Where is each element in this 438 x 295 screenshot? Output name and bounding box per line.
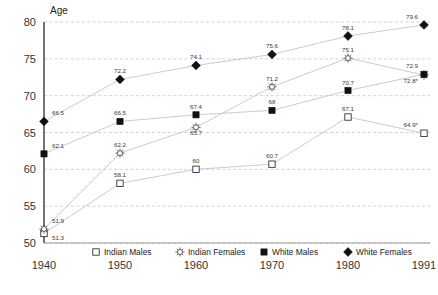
data-point-label: 65.7 <box>190 129 203 136</box>
marker-filled-square <box>261 249 267 255</box>
sunburst-ray <box>274 84 275 85</box>
x-tick-label: 1980 <box>336 259 360 271</box>
marker-open-sunburst <box>39 224 48 233</box>
legend-item-label: Indian Females <box>188 247 245 257</box>
sunburst-ray <box>122 150 123 151</box>
series-line <box>44 58 424 229</box>
data-point: 64.9* <box>404 121 428 136</box>
data-point: 66.5 <box>114 109 127 124</box>
marker-filled-square <box>421 71 427 77</box>
data-point-label: 70.7 <box>342 79 355 86</box>
chart-canvas: 50556065707580Age19401950196019701980199… <box>0 0 438 295</box>
series-white-males: 62.166.567.46870.772.9 <box>41 62 427 157</box>
x-tick-label: 1950 <box>108 259 132 271</box>
marker-open-square <box>421 130 427 136</box>
sunburst-core <box>178 250 183 255</box>
legend: Indian MalesIndian FemalesWhite MalesWhi… <box>93 247 412 257</box>
sunburst-ray <box>122 155 123 156</box>
sunburst-core <box>270 84 275 89</box>
data-point: 60.7 <box>266 152 279 167</box>
marker-open-sunburst <box>175 247 184 256</box>
sunburst-core <box>118 151 123 156</box>
data-point-label: 66.5 <box>52 109 65 116</box>
series-indian-females: 51.962.265.771.275.172.8* <box>39 46 428 234</box>
data-point: 68 <box>269 98 276 113</box>
series-line <box>44 74 424 154</box>
legend-item-indian-males[interactable]: Indian Males <box>93 247 152 257</box>
series-white-females: 66.572.274.175.678.179.6 <box>40 13 429 126</box>
data-point-label: 72.9 <box>406 62 419 69</box>
series-line <box>44 117 424 233</box>
marker-filled-diamond <box>40 117 49 126</box>
marker-open-square <box>193 166 199 172</box>
data-point-label: 72.2 <box>114 67 127 74</box>
y-axis-title: Age <box>50 5 68 16</box>
life-expectancy-line-chart: 50556065707580Age19401950196019701980199… <box>0 0 438 295</box>
sunburst-core <box>346 56 351 61</box>
data-point: 67.4 <box>190 103 203 118</box>
data-point-label: 75.6 <box>266 42 279 49</box>
data-point-label: 67.1 <box>342 105 355 112</box>
marker-open-square <box>345 114 351 120</box>
marker-filled-square <box>193 112 199 118</box>
x-tick-label: 1970 <box>260 259 284 271</box>
sunburst-ray <box>350 55 351 56</box>
sunburst-ray <box>182 254 183 255</box>
legend-item-white-females[interactable]: White Females <box>344 247 412 257</box>
sunburst-ray <box>269 89 270 90</box>
sunburst-ray <box>41 226 42 227</box>
y-tick-label: 75 <box>24 53 36 65</box>
data-point-label: 79.6 <box>406 13 419 20</box>
data-point-label: 78.1 <box>342 24 355 31</box>
marker-open-sunburst <box>343 53 352 62</box>
sunburst-ray <box>117 150 118 151</box>
sunburst-ray <box>182 249 183 250</box>
marker-filled-square <box>41 151 47 157</box>
data-point-label: 75.1 <box>342 46 355 53</box>
axes-group <box>44 22 430 243</box>
x-tick-label: 1940 <box>32 259 56 271</box>
data-point: 58.1 <box>114 171 127 186</box>
y-tick-label: 55 <box>24 200 36 212</box>
data-point: 78.1 <box>342 24 355 40</box>
data-point: 75.1 <box>342 46 355 63</box>
data-point: 72.9 <box>406 62 427 77</box>
marker-filled-diamond <box>344 32 353 41</box>
y-tick-label: 50 <box>24 237 36 249</box>
sunburst-ray <box>117 155 118 156</box>
sunburst-ray <box>269 84 270 85</box>
data-point-label: 58.1 <box>114 171 127 178</box>
sunburst-ray <box>350 60 351 61</box>
marker-filled-square <box>117 118 123 124</box>
gridlines-group <box>44 22 430 243</box>
data-point-label: 51.3 <box>52 234 65 241</box>
y-tick-label: 80 <box>24 16 36 28</box>
marker-filled-diamond <box>344 248 353 257</box>
data-point-label: 74.1 <box>190 53 203 60</box>
sunburst-ray <box>193 124 194 125</box>
x-tick-labels: 194019501960197019801991 <box>32 259 436 271</box>
legend-item-white-males[interactable]: White Males <box>261 247 318 257</box>
sunburst-ray <box>345 60 346 61</box>
data-point-label: 60 <box>193 157 200 164</box>
data-point-label: 64.9* <box>404 121 419 128</box>
series-indian-males: 51.358.16060.767.164.9* <box>41 105 427 241</box>
data-point-label: 67.4 <box>190 103 203 110</box>
legend-item-label: White Males <box>272 247 318 257</box>
sunburst-ray <box>177 249 178 250</box>
data-point-label: 62.2 <box>114 141 127 148</box>
sunburst-core <box>42 227 47 232</box>
legend-item-indian-females[interactable]: Indian Females <box>175 247 245 257</box>
sunburst-ray <box>198 124 199 125</box>
data-point: 74.1 <box>190 53 203 69</box>
legend-item-label: White Females <box>356 247 412 257</box>
data-point-label: 51.9 <box>52 217 65 224</box>
data-point: 60 <box>193 157 200 172</box>
data-point-label: 60.7 <box>266 152 279 159</box>
marker-filled-diamond <box>268 50 277 59</box>
data-point-label: 68 <box>269 98 276 105</box>
marker-open-square <box>93 249 99 255</box>
marker-filled-diamond <box>116 75 125 84</box>
marker-open-sunburst <box>267 82 276 91</box>
legend-item-label: Indian Males <box>104 247 152 257</box>
